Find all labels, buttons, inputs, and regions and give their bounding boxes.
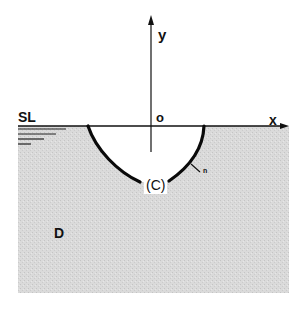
y-axis-label: y [158,27,166,42]
y-axis-arrowhead [148,15,154,25]
diagram-svg [0,0,305,310]
origin-label: o [156,111,164,124]
x-axis-label: x [269,113,277,127]
normal-label: n [203,167,207,174]
domain-label: D [54,226,64,240]
diagram-canvas: y o x SL (C) n D [0,0,305,310]
surface-line-label: SL [18,110,36,124]
curve-label: (C) [144,177,167,194]
